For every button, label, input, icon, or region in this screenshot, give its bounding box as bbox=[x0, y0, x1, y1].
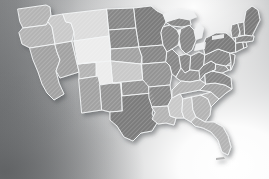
map-shape-group bbox=[18, 5, 260, 160]
map-canvas bbox=[0, 0, 269, 179]
state-maine bbox=[244, 6, 260, 36]
state-iowa bbox=[139, 45, 167, 64]
state-newmexico bbox=[100, 83, 122, 112]
us-map[interactable] bbox=[0, 0, 269, 179]
state-fills bbox=[18, 5, 260, 160]
state-southdakota bbox=[109, 28, 139, 49]
state-northdakota bbox=[107, 8, 136, 30]
state-florida-keys bbox=[216, 157, 225, 160]
state-arizona bbox=[79, 76, 102, 113]
state-wyoming bbox=[74, 36, 111, 64]
state-missouri bbox=[142, 62, 172, 87]
state-florida bbox=[191, 117, 231, 155]
state-kansas bbox=[111, 61, 143, 83]
state-rhodeisland bbox=[243, 42, 247, 48]
state-minnesota bbox=[134, 6, 166, 47]
state-newjersey bbox=[230, 53, 235, 70]
us-map-svg[interactable] bbox=[0, 0, 269, 179]
state-michigan-lp bbox=[179, 25, 196, 54]
state-arkansas bbox=[149, 85, 172, 107]
